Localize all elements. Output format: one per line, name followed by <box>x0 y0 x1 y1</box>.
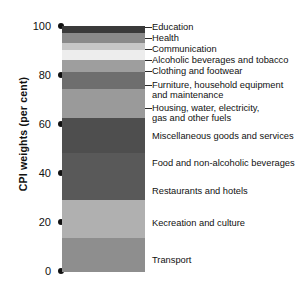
category-label: gas and other fuels <box>152 113 231 123</box>
bar-segment <box>62 200 145 238</box>
category-label: Health <box>152 33 179 43</box>
bar-segment <box>62 89 145 118</box>
y-axis-tick-label: 0 <box>45 265 51 277</box>
category-label: Miscellaneous goods and services <box>152 131 294 141</box>
category-label: Transport <box>152 255 191 265</box>
bar-segment <box>62 50 145 60</box>
label-leader-line <box>145 49 152 50</box>
y-axis-tick: 0 <box>22 265 64 277</box>
category-label: Clothing and footwear <box>152 66 242 76</box>
y-axis-tick: 80 <box>22 69 64 81</box>
label-leader-line <box>145 108 152 109</box>
y-axis-tick-label: 40 <box>39 167 51 179</box>
y-axis-tick: 60 <box>22 118 64 130</box>
category-label: Restaurants and hotels <box>152 186 248 196</box>
bar-segment <box>62 33 145 43</box>
category-label: Furniture, household equipment <box>152 80 283 90</box>
label-leader-line <box>145 27 152 28</box>
category-label: and maintenance <box>152 90 223 100</box>
cpi-weights-stacked-bar-chart: CPI weights (per cent) 100806040200 Educ… <box>0 0 302 291</box>
bar-segment <box>62 60 145 72</box>
category-label: Housing, water, electricity, <box>152 103 259 113</box>
category-label: Education <box>152 22 193 32</box>
bar-segment <box>62 118 145 153</box>
bar-segment <box>62 238 145 272</box>
y-axis-title: CPI weights (per cent) <box>17 59 29 209</box>
stacked-bar <box>62 26 145 272</box>
label-leader-line <box>145 38 152 39</box>
bar-segment <box>62 26 145 33</box>
category-label: Alcoholic beverages and tobacco <box>152 55 288 65</box>
category-label: Kecreation and culture <box>152 218 245 228</box>
y-axis-tick-label: 60 <box>39 118 51 130</box>
label-leader-line <box>145 60 152 61</box>
bar-segment <box>62 43 145 50</box>
y-axis-tick-label: 20 <box>39 216 51 228</box>
y-axis-tick: 40 <box>22 167 64 179</box>
y-axis-tick: 20 <box>22 216 64 228</box>
y-axis-tick-label: 100 <box>33 20 51 32</box>
y-axis-tick: 100 <box>22 20 64 32</box>
bar-segment <box>62 153 145 200</box>
label-leader-line <box>145 71 152 72</box>
category-label: Communication <box>152 44 217 54</box>
label-leader-line <box>145 85 152 86</box>
bar-segment <box>62 72 145 89</box>
y-axis-tick-label: 80 <box>39 69 51 81</box>
category-label: Food and non-alcoholic beverages <box>152 158 295 168</box>
